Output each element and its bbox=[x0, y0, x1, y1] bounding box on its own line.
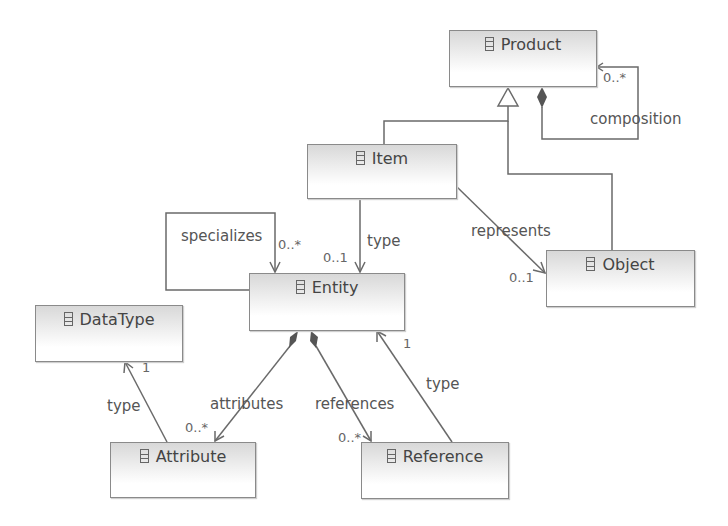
attribute-type-multiplicity: 1 bbox=[142, 360, 150, 375]
references-label: references bbox=[315, 395, 394, 413]
attributes-label: attributes bbox=[210, 395, 283, 413]
composition-label: composition bbox=[590, 110, 681, 128]
class-name: Product bbox=[501, 35, 562, 54]
class-icon bbox=[64, 312, 73, 326]
composition-diamond bbox=[537, 87, 547, 108]
item-type-label: type bbox=[367, 232, 401, 250]
class-icon bbox=[296, 280, 305, 294]
class-entity[interactable]: Entity bbox=[249, 273, 405, 331]
attributes-connector bbox=[215, 346, 290, 441]
class-icon bbox=[387, 449, 396, 463]
attributes-diamond bbox=[289, 331, 298, 348]
represents-label: represents bbox=[471, 222, 551, 240]
represents-multiplicity: 0..1 bbox=[509, 270, 534, 285]
attribute-type-label: type bbox=[107, 397, 141, 415]
class-object[interactable]: Object bbox=[546, 250, 695, 307]
class-name: Attribute bbox=[156, 447, 227, 466]
composition-multiplicity: 0..* bbox=[603, 70, 626, 85]
class-name: Reference bbox=[403, 447, 484, 466]
class-icon bbox=[140, 449, 149, 463]
reference-type-multiplicity: 1 bbox=[403, 336, 411, 351]
class-item[interactable]: Item bbox=[307, 144, 457, 199]
class-name: DataType bbox=[80, 310, 155, 329]
references-connector bbox=[316, 346, 371, 441]
class-attribute[interactable]: Attribute bbox=[110, 442, 256, 498]
specializes-label: specializes bbox=[181, 227, 262, 245]
class-name: Entity bbox=[312, 278, 359, 297]
item-type-multiplicity: 0..1 bbox=[323, 250, 348, 265]
class-datatype[interactable]: DataType bbox=[35, 305, 183, 362]
generalization-triangle bbox=[498, 88, 518, 106]
class-product[interactable]: Product bbox=[449, 30, 597, 87]
class-icon bbox=[356, 151, 365, 165]
references-diamond bbox=[310, 331, 318, 348]
reference-type-label: type bbox=[426, 375, 460, 393]
references-multiplicity: 0..* bbox=[338, 430, 361, 445]
generalization-item-connector bbox=[384, 104, 508, 144]
specializes-multiplicity: 0..* bbox=[278, 237, 301, 252]
class-icon bbox=[485, 37, 494, 51]
class-name: Item bbox=[372, 149, 408, 168]
uml-class-diagram: Product Item Object Entity DataType Attr… bbox=[0, 0, 728, 526]
class-name: Object bbox=[602, 255, 654, 274]
attributes-multiplicity: 0..* bbox=[185, 420, 208, 435]
class-reference[interactable]: Reference bbox=[361, 442, 509, 499]
class-icon bbox=[586, 257, 595, 271]
